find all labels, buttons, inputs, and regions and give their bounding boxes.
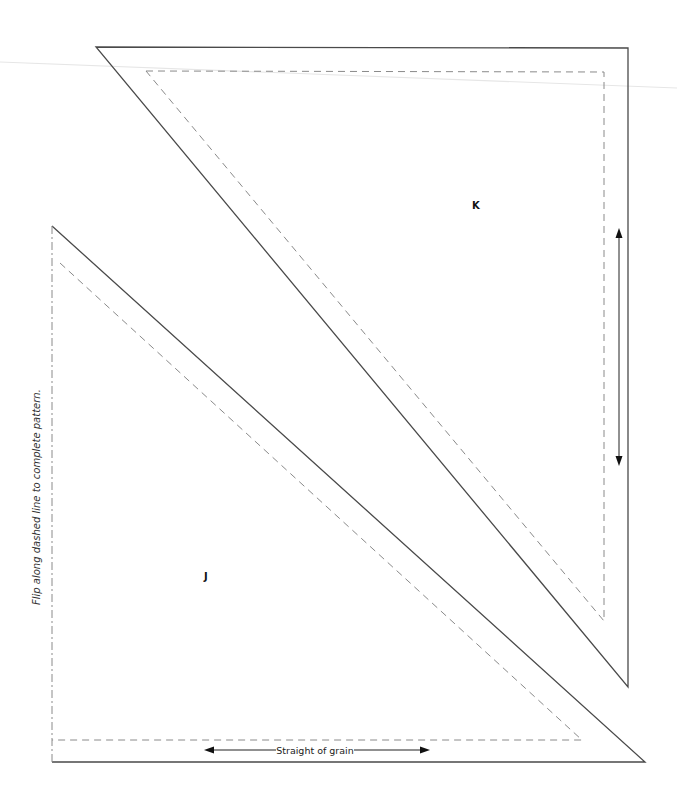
piece-k-label: K bbox=[472, 200, 481, 211]
piece-k-seam-line bbox=[146, 71, 604, 621]
fold-instruction: Flip along dashed line to complete patte… bbox=[31, 389, 42, 605]
arrowhead-right-icon bbox=[420, 747, 430, 754]
piece-j-cutting-line bbox=[52, 226, 645, 762]
piece-k-grain-arrow bbox=[616, 228, 623, 466]
arrowhead-up-icon bbox=[616, 228, 623, 238]
piece-k-cutting-line bbox=[96, 47, 628, 687]
piece-j-grain-arrow: Straight of grain bbox=[204, 745, 430, 756]
quilt-pattern-sheet: K J Straight of grain Flip along dashed … bbox=[0, 0, 677, 806]
piece-j-label: J bbox=[203, 571, 208, 582]
piece-j-seam-line bbox=[52, 263, 582, 740]
scan-artifact-line bbox=[0, 62, 677, 88]
pattern-piece-k: K bbox=[96, 47, 628, 687]
pattern-piece-j: J Straight of grain Flip along dashed li… bbox=[31, 226, 645, 762]
grain-label: Straight of grain bbox=[276, 745, 354, 756]
arrowhead-down-icon bbox=[616, 456, 623, 466]
arrowhead-left-icon bbox=[204, 747, 214, 754]
